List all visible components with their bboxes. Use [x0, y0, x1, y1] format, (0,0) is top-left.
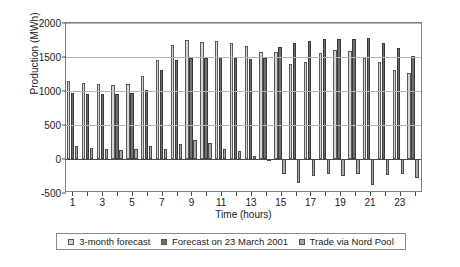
bar-0: [245, 46, 248, 159]
bar-1: [160, 70, 163, 159]
x-axis-tick-label: 19: [335, 197, 346, 208]
bar-0: [97, 84, 100, 159]
bar-1: [234, 58, 237, 159]
gridline: [66, 125, 421, 126]
legend-item: 3-month forecast: [68, 236, 150, 247]
bar-0: [348, 51, 351, 159]
x-axis-title: Time (hours): [65, 209, 422, 220]
bar-2: [134, 149, 137, 159]
bar-0: [171, 45, 174, 159]
bar-2: [282, 159, 285, 174]
x-axis-tick-mark: [206, 192, 207, 196]
bar-1: [130, 93, 133, 159]
bar-group: [214, 23, 229, 191]
x-axis-tick-mark: [147, 192, 148, 196]
x-axis-tick-mark: [87, 192, 88, 196]
bar-2: [223, 149, 226, 159]
bar-0: [215, 41, 218, 159]
gridline: [66, 91, 421, 92]
x-axis-tick-mark: [281, 192, 282, 196]
x-axis-tick-mark: [415, 192, 416, 196]
bar-2: [90, 148, 93, 159]
bar-0: [319, 53, 322, 159]
legend-item: Forecast on 23 March 2001: [161, 236, 288, 247]
bar-0: [126, 84, 129, 159]
x-axis-tick-mark: [370, 192, 371, 196]
bar-2: [105, 149, 108, 159]
x-axis-tick-mark: [117, 192, 118, 196]
legend-item-label: Forecast on 23 March 2001: [172, 236, 288, 247]
bar-group: [66, 23, 81, 191]
bar-group: [392, 23, 407, 191]
bar-2: [356, 159, 359, 174]
bar-2: [386, 159, 389, 175]
bar-group: [406, 23, 421, 191]
bar-1: [411, 56, 414, 159]
bar-2: [312, 159, 315, 176]
bar-group: [273, 23, 288, 191]
bar-2: [149, 146, 152, 159]
bar-group: [377, 23, 392, 191]
y-axis-tick-mark: [62, 91, 66, 92]
legend-item-label: Trade via Nord Pool: [310, 236, 394, 247]
bar-0: [141, 76, 144, 159]
x-axis-tick-mark: [177, 192, 178, 196]
bar-group: [303, 23, 318, 191]
x-axis-tick-label: 9: [189, 197, 195, 208]
bar-groups: [66, 23, 421, 191]
square-swatch-dark-icon: [161, 239, 167, 245]
x-axis-tick-label: 15: [275, 197, 286, 208]
x-axis-tick-mark: [102, 192, 103, 196]
bar-0: [82, 83, 85, 159]
bar-1: [308, 41, 311, 159]
bar-group: [229, 23, 244, 191]
x-axis-tick-mark: [385, 192, 386, 196]
bar-1: [189, 58, 192, 159]
bar-1: [382, 43, 385, 159]
x-axis-tick-mark: [236, 192, 237, 196]
bar-2: [75, 146, 78, 159]
x-axis-tick-mark: [296, 192, 297, 196]
zero-line: [66, 159, 421, 160]
bar-group: [244, 23, 259, 191]
bar-group: [125, 23, 140, 191]
x-axis-tick-mark: [355, 192, 356, 196]
bar-1: [101, 94, 104, 159]
bar-1: [219, 57, 222, 159]
bar-2: [401, 159, 404, 174]
x-axis-tick-mark: [266, 192, 267, 196]
x-axis: 1357911131517192123: [65, 192, 422, 208]
square-swatch-medium-icon: [299, 239, 305, 245]
x-axis-tick-mark: [221, 192, 222, 196]
gridline: [66, 57, 421, 58]
x-axis-tick-label: 13: [245, 197, 256, 208]
bar-0: [378, 62, 381, 159]
y-axis-tick-mark: [62, 125, 66, 126]
bar-1: [397, 48, 400, 159]
bar-2: [415, 159, 418, 178]
x-axis-tick-mark: [251, 192, 252, 196]
bar-1: [278, 47, 281, 159]
bar-0: [111, 85, 114, 159]
chart-legend: 3-month forecastForecast on 23 March 200…: [56, 233, 406, 250]
y-axis-tick-mark: [62, 57, 66, 58]
y-axis-tick-mark: [62, 159, 66, 160]
bar-1: [249, 59, 252, 159]
bar-1: [204, 58, 207, 159]
x-axis-tick-mark: [340, 192, 341, 196]
bar-1: [115, 94, 118, 159]
bar-2: [371, 159, 374, 185]
bar-group: [288, 23, 303, 191]
legend-item: Trade via Nord Pool: [299, 236, 394, 247]
bar-1: [263, 58, 266, 159]
bar-2: [119, 150, 122, 159]
bar-0: [393, 70, 396, 159]
bar-2: [327, 159, 330, 174]
bar-1: [293, 43, 296, 159]
bar-2: [193, 140, 196, 159]
bar-0: [67, 81, 70, 159]
bar-group: [140, 23, 155, 191]
x-axis-tick-mark: [310, 192, 311, 196]
bar-1: [71, 93, 74, 159]
x-axis-tick-label: 7: [159, 197, 165, 208]
